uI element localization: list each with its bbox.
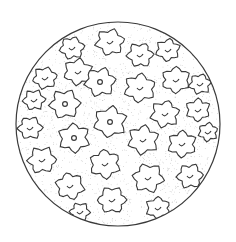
exine-plate [59, 37, 85, 59]
exine-plate [126, 44, 154, 66]
exine-plate [187, 98, 210, 122]
exine-plate [198, 122, 217, 142]
exine-plate [156, 38, 180, 61]
exine-plate [97, 188, 127, 212]
exine-plate [168, 130, 195, 158]
exine-plate [132, 164, 164, 193]
exine-plate [59, 123, 90, 153]
exine-plate [124, 73, 154, 103]
exine-plate [128, 125, 158, 156]
exine-plate [55, 173, 85, 200]
exine-plate [150, 101, 180, 128]
exine-plate [163, 66, 189, 93]
exine-plate [33, 67, 57, 90]
pollen-grain-drawing [0, 0, 236, 242]
exine-plate [17, 117, 43, 138]
exine-plate [22, 90, 46, 110]
exine-plate [27, 147, 57, 172]
exine-plate [48, 90, 81, 118]
exine-plate [94, 106, 127, 138]
exine-plate [176, 164, 203, 188]
exine-plate [95, 29, 125, 55]
pollen-illustration [0, 0, 236, 242]
exine-plate [90, 150, 120, 180]
